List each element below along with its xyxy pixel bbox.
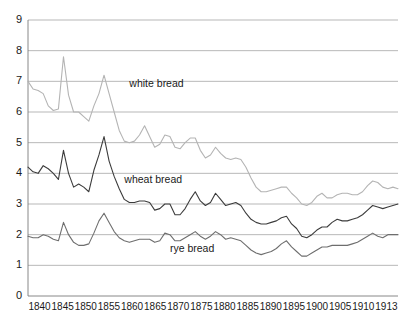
annotation-wheat-bread: wheat bread [123,173,182,185]
y-tick-9: 9 [16,13,22,25]
x-tick-1840: 1840 [28,301,51,312]
x-tick-1865: 1865 [144,301,167,312]
chart-canvas: 0123456789 18401845185018551860186518701… [0,0,417,317]
series-line-white-bread [28,57,398,206]
y-tick-2: 2 [16,228,22,240]
x-tick-1855: 1855 [98,301,121,312]
y-tick-1: 1 [16,258,22,270]
y-tick-3: 3 [16,197,22,209]
x-tick-1850: 1850 [75,301,98,312]
data-series [28,57,398,256]
x-axis-tick-labels: 1840184518501855186018651870187518801885… [28,301,398,312]
x-tick-1895: 1895 [283,301,306,312]
gridlines [28,20,398,265]
y-axis-tick-labels: 0123456789 [16,13,22,301]
y-tick-6: 6 [16,105,22,117]
axes [28,20,398,296]
x-tick-1890: 1890 [260,301,283,312]
series-annotations: white breadwheat breadrye bread [123,77,214,253]
x-tick-1885: 1885 [237,301,260,312]
bread-price-chart: 0123456789 18401845185018551860186518701… [0,0,417,317]
annotation-rye-bread: rye bread [170,242,215,254]
x-tick-1870: 1870 [167,301,190,312]
x-tick-1910: 1910 [352,301,375,312]
x-tick-1845: 1845 [52,301,75,312]
x-tick-1913: 1913 [375,301,398,312]
y-tick-5: 5 [16,136,22,148]
y-tick-8: 8 [16,44,22,56]
x-tick-1900: 1900 [306,301,329,312]
x-tick-1880: 1880 [213,301,236,312]
y-tick-0: 0 [16,289,22,301]
x-tick-1905: 1905 [329,301,352,312]
y-tick-7: 7 [16,74,22,86]
x-tick-1875: 1875 [190,301,213,312]
annotation-white-bread: white bread [128,77,183,89]
x-tick-1860: 1860 [121,301,144,312]
y-tick-4: 4 [16,166,22,178]
